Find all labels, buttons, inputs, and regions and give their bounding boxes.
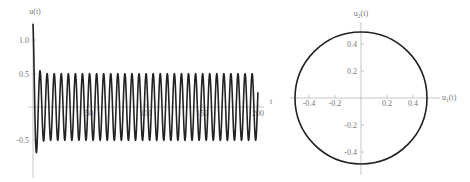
u1-axis-label: u1(t) xyxy=(442,93,457,103)
y-tick-label: 0.2 xyxy=(347,67,357,76)
time-series-plot: 1.0 0.5 -0.5 50 100 150 200 u(t) t xyxy=(16,7,273,178)
figure: 1.0 0.5 -0.5 50 100 150 200 u(t) t -0.4 … xyxy=(0,0,470,182)
x-tick-label: -0.2 xyxy=(329,99,342,108)
y-tick-label: 1.0 xyxy=(19,36,29,45)
y-tick-label: -0.4 xyxy=(344,148,357,157)
y-tick-label: 0.4 xyxy=(347,40,357,49)
y-axis-label: u(t) xyxy=(29,7,41,16)
x-tick-label: -0.4 xyxy=(303,99,316,108)
u2-axis-label: u2(t) xyxy=(354,9,369,19)
x-axis-label: t xyxy=(270,97,273,106)
time-series-curve xyxy=(33,24,258,153)
y-tick-label: -0.5 xyxy=(16,136,29,145)
y-tick-label: -0.2 xyxy=(344,121,357,130)
x-tick-label: 0.4 xyxy=(408,99,418,108)
phase-portrait-plot: -0.4 -0.2 0.2 0.4 0.4 0.2 -0.2 -0.4 u2(t… xyxy=(290,9,457,175)
x-tick-label: 0.2 xyxy=(382,99,392,108)
y-tick-label: 0.5 xyxy=(19,70,29,79)
